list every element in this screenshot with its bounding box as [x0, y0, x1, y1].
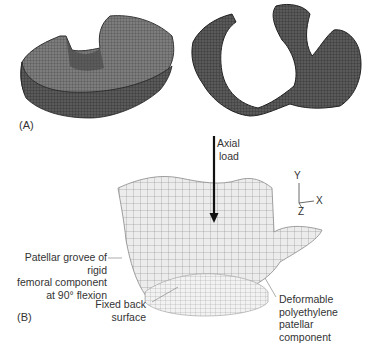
axial-load-label-line2: load	[217, 150, 240, 163]
groove-annotation-line2: femoral component	[4, 276, 107, 289]
panel-b-label: (B)	[17, 311, 32, 323]
groove-annotation-line1: Patellar grovee of rigid	[4, 251, 107, 276]
coordinate-axes-icon	[299, 183, 314, 208]
axis-x-label: X	[316, 195, 323, 208]
deformable-annotation-line2: polyethylene patellar	[279, 306, 374, 331]
axis-y-label: Y	[294, 170, 301, 183]
groove-annotation: Patellar grovee of rigid femoral compone…	[4, 251, 107, 301]
fixed-surface-annotation-line1: Fixed back	[90, 298, 146, 311]
deformable-annotation-line3: component	[279, 331, 374, 343]
femoral-component-mesh	[192, 4, 361, 116]
axial-load-label-line1: Axial	[217, 137, 240, 150]
fixed-surface-annotation: Fixed back surface	[90, 298, 146, 323]
deformable-annotation-line1: Deformable	[279, 293, 374, 306]
fixed-surface-annotation-line2: surface	[90, 311, 146, 324]
panel-a-label: (A)	[19, 119, 34, 131]
axial-load-label: Axial load	[217, 137, 240, 162]
deformable-component-annotation: Deformable polyethylene patellar compone…	[279, 293, 374, 343]
axis-z-label: Z	[298, 206, 304, 219]
patellar-component-mesh	[21, 16, 174, 118]
